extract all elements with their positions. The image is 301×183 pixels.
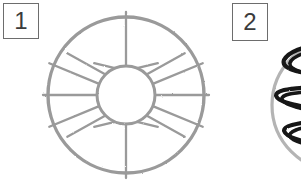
panel-2: 2 xyxy=(226,0,301,183)
spoke-group xyxy=(43,12,209,178)
panel-label-1: 1 xyxy=(3,3,39,39)
spoke xyxy=(94,63,115,68)
panel-label-2: 2 xyxy=(232,3,268,41)
spoke xyxy=(94,122,115,127)
figure-root: 1 xyxy=(0,0,301,183)
spoke xyxy=(137,63,158,68)
spoke xyxy=(137,122,158,127)
panel-1: 1 xyxy=(0,0,226,183)
